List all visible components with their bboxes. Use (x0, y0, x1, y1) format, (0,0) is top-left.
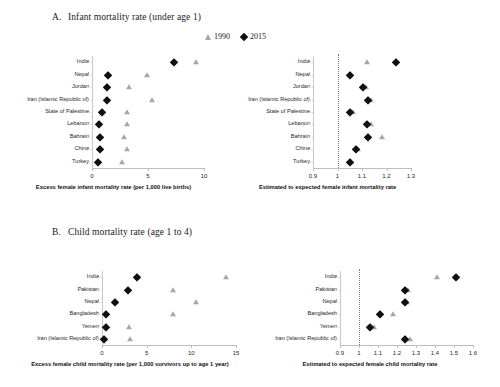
triangle-up-icon (124, 122, 130, 127)
axis-tick-label: 1 (336, 173, 339, 179)
axis-tick-label: 1.2 (393, 350, 401, 356)
category-label: Iran (Islamic Republic of) (244, 97, 310, 103)
category-label: Iran (Islamic Republic of) (23, 97, 89, 103)
category-label: India (23, 59, 89, 65)
legend-label-1990: 1990 (214, 32, 230, 41)
diamond-icon (352, 145, 360, 153)
axis-tick (191, 345, 192, 348)
chart-panel-a-left: IndiaNepalJordanIran (Islamic Republic o… (0, 0, 500, 387)
axis-tick-label: 1 (357, 350, 360, 356)
axis-tick (473, 345, 474, 348)
category-tick (336, 314, 340, 315)
panel-a-title: A.Infant mortality rate (under age 1) (52, 12, 201, 22)
triangle-up-icon (205, 34, 211, 40)
triangle-up-icon (127, 336, 133, 341)
triangle-up-icon (149, 97, 155, 102)
axis-tick-label: 1.2 (382, 173, 390, 179)
category-label: Yemen (267, 324, 337, 330)
diamond-icon (376, 310, 384, 318)
category-axis-line (102, 271, 103, 345)
axis-tick (435, 345, 436, 348)
category-tick (88, 112, 92, 113)
category-tick (336, 339, 340, 340)
legend: 1990 2015 (205, 32, 273, 41)
diamond-icon (100, 335, 108, 343)
axis-tick (236, 345, 237, 348)
diamond-icon (452, 273, 460, 281)
triangle-up-icon (193, 299, 199, 304)
category-label: Nepal (29, 299, 99, 305)
diamond-icon (95, 121, 103, 129)
category-tick (309, 87, 313, 88)
panel-b-title-text: Child mortality rate (age 1 to 4) (68, 227, 192, 237)
category-tick (309, 162, 313, 163)
axis-tick (147, 345, 148, 348)
triangle-up-icon (363, 84, 369, 89)
triangle-up-icon (355, 147, 361, 152)
legend-label-2015: 2015 (250, 32, 266, 41)
triangle-up-icon (119, 159, 125, 164)
category-tick (98, 290, 102, 291)
axis-title: Estimated to expected female infant mort… (244, 185, 411, 191)
category-tick (309, 112, 313, 113)
diamond-icon (96, 145, 104, 153)
axis-tick (411, 168, 412, 171)
panel-a-title-text: Infant mortality rate (under age 1) (68, 12, 201, 22)
value-axis-line (92, 168, 204, 169)
triangle-up-icon (368, 97, 374, 102)
triangle-up-icon (170, 311, 176, 316)
value-axis-line (340, 345, 473, 346)
axis-tick-label: 1.1 (358, 173, 366, 179)
diamond-icon (359, 83, 367, 91)
category-tick (336, 290, 340, 291)
diamond-icon (103, 310, 111, 318)
category-tick (98, 327, 102, 328)
axis-tick-label: 0.9 (336, 350, 344, 356)
axis-tick-label: 1.5 (450, 350, 458, 356)
triangle-up-icon (364, 59, 370, 64)
axis-tick-label: 0.9 (309, 173, 317, 179)
category-label: India (29, 274, 99, 280)
reference-line (359, 269, 360, 345)
axis-tick (387, 168, 388, 171)
value-axis-line (102, 345, 236, 346)
axis-tick-label: 5 (145, 350, 148, 356)
axis-title: Excess female infant mortality rate (per… (23, 185, 204, 191)
chart-panel-a-right: IndiaNepalJordanIran (Islamic Republic o… (0, 0, 500, 387)
legend-item-2015: 2015 (241, 32, 266, 41)
category-label: Nepal (267, 299, 337, 305)
legend-item-1990: 1990 (205, 32, 230, 41)
category-tick (98, 314, 102, 315)
triangle-up-icon (434, 274, 440, 279)
chart-panel-b-right: IndiaPakistanNepalBangladeshYemenIran (I… (0, 0, 500, 387)
category-label: Lebanon (23, 122, 89, 128)
category-tick (309, 124, 313, 125)
diamond-icon (346, 108, 354, 116)
category-label: Pakistan (29, 287, 99, 293)
category-axis-line (340, 271, 341, 345)
category-label: Iran (Islamic Republic of) (29, 336, 99, 342)
category-label: State of Palestine (23, 109, 89, 115)
category-tick (88, 87, 92, 88)
diamond-icon (98, 108, 106, 116)
diamond-icon (170, 58, 178, 66)
triangle-up-icon (124, 109, 130, 114)
category-label: Turkey (244, 159, 310, 165)
category-label: Nepal (244, 72, 310, 78)
triangle-up-icon (407, 336, 413, 341)
diamond-icon (104, 71, 112, 79)
axis-tick (378, 345, 379, 348)
axis-tick-label: 0 (90, 173, 93, 179)
triangle-up-icon (170, 287, 176, 292)
category-tick (309, 149, 313, 150)
category-axis-line (313, 56, 314, 168)
category-label: Pakistan (267, 287, 337, 293)
category-tick (309, 100, 313, 101)
category-axis-line (92, 56, 93, 168)
category-tick (336, 302, 340, 303)
diamond-icon (367, 323, 375, 331)
category-label: Bahrain (23, 134, 89, 140)
triangle-up-icon (126, 324, 132, 329)
axis-tick (313, 168, 314, 171)
category-tick (88, 124, 92, 125)
